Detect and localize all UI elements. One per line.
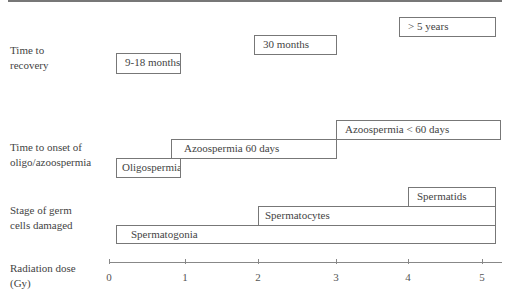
box-oligospermia: Oligospermia <box>116 158 181 178</box>
row-label-line: Stage of germ <box>10 203 73 218</box>
axis-tick <box>258 259 259 264</box>
axis-label-radiation-dose: Radiation dose (Gy) <box>10 261 76 291</box>
row-label-recovery: Time to recovery <box>10 43 48 73</box>
dose-axis-line <box>109 262 502 263</box>
box-spermatids: Spermatids <box>408 187 496 207</box>
axis-tick <box>482 259 483 264</box>
box-azoospermia-60-days: Azoospermia 60 days <box>171 139 337 159</box>
axis-tick <box>408 259 409 264</box>
row-label-onset: Time to onset of oligo/azoospermia <box>10 140 91 170</box>
box-recovery-9-18-months: 9-18 months <box>116 53 181 74</box>
row-label-line: Time to onset of <box>10 140 91 155</box>
row-label-line: oligo/azoospermia <box>10 155 91 170</box>
axis-tick-label: 4 <box>402 271 414 283</box>
axis-tick-label: 0 <box>103 271 115 283</box>
row-label-line: recovery <box>10 58 48 73</box>
box-recovery-30-months: 30 months <box>254 35 337 55</box>
axis-tick <box>185 259 186 264</box>
top-border-line <box>8 0 502 2</box>
axis-label-line: Radiation dose <box>10 261 76 276</box>
box-azoospermia-under-60-days: Azoospermia < 60 days <box>336 120 501 140</box>
axis-tick-label: 2 <box>252 271 264 283</box>
axis-label-line: (Gy) <box>10 276 76 291</box>
axis-tick-label: 1 <box>179 271 191 283</box>
row-label-line: Time to <box>10 43 48 58</box>
axis-tick-label: 3 <box>330 271 342 283</box>
row-label-line: cells damaged <box>10 218 73 233</box>
row-label-germ-cells: Stage of germ cells damaged <box>10 203 73 233</box>
axis-tick <box>336 259 337 264</box>
box-spermatocytes: Spermatocytes <box>258 206 496 226</box>
axis-tick-label: 5 <box>476 271 488 283</box>
axis-tick <box>109 259 110 264</box>
box-spermatogonia: Spermatogonia <box>116 225 496 244</box>
box-recovery-over-5-years: > 5 years <box>399 17 496 37</box>
